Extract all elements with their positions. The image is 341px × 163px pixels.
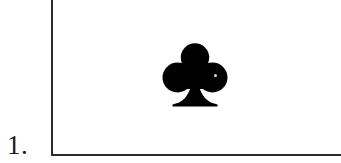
scan-speck-artifact	[214, 74, 217, 77]
club-suit-icon	[161, 41, 229, 107]
item-number-label: 1.	[7, 132, 28, 159]
left-vertical-rule	[51, 0, 53, 156]
bottom-horizontal-rule	[51, 154, 341, 156]
figure-panel: 1.	[0, 0, 341, 163]
